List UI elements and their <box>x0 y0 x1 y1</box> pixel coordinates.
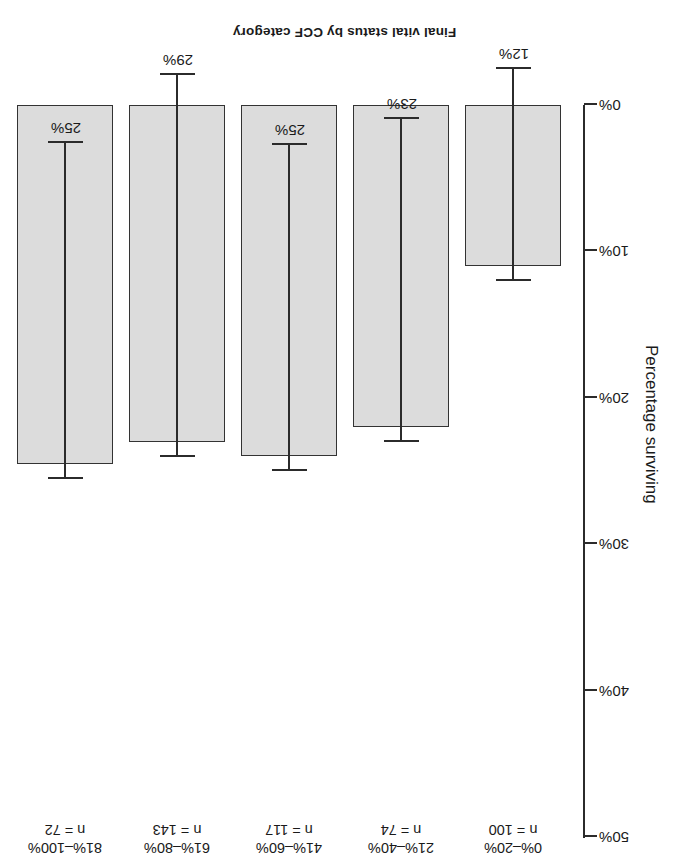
y-axis-tick-label-4: 40% <box>599 683 689 700</box>
y-axis-title: Percentage surviving <box>641 345 661 504</box>
y-axis-tick-4 <box>584 689 597 691</box>
error-bar-stem-2 <box>288 145 290 471</box>
y-axis-tick-5 <box>584 836 597 838</box>
figure-caption: Final vital status by CCF category <box>0 25 689 40</box>
category-label-1: 21%–40% n = 74 <box>343 821 459 855</box>
chart-figure: 0% 10% 20% 30% 40% 50% Percentage surviv… <box>0 0 689 855</box>
y-axis-tick-0 <box>584 103 597 105</box>
y-axis-tick-label-0: 0% <box>599 97 689 114</box>
error-value-label-1: 23% <box>367 96 437 113</box>
error-bar-cap-0 <box>496 279 531 281</box>
error-bar-cap-4 <box>48 477 83 479</box>
error-bar-cap-3 <box>160 455 195 457</box>
category-range-4: 81%–100% <box>7 839 123 855</box>
y-axis-tick-1 <box>584 250 597 252</box>
y-axis-tick-label-1: 10% <box>599 244 689 261</box>
category-n-4: n = 72 <box>7 821 123 839</box>
error-bar-stem-4 <box>64 143 66 479</box>
category-label-0: 0%–20% n = 100 <box>455 821 571 855</box>
error-value-label-0: 12% <box>479 46 549 63</box>
error-bar-stem-3 <box>176 75 178 457</box>
error-bar-lower-cap-4 <box>48 141 83 143</box>
category-n-0: n = 100 <box>455 821 571 839</box>
error-bar-lower-cap-2 <box>272 143 307 145</box>
category-n-3: n = 143 <box>119 821 235 839</box>
category-range-1: 21%–40% <box>343 839 459 855</box>
y-axis-tick-3 <box>584 543 597 545</box>
category-n-1: n = 74 <box>343 821 459 839</box>
category-n-2: n = 117 <box>231 821 347 839</box>
category-range-0: 0%–20% <box>455 839 571 855</box>
error-bar-lower-cap-1 <box>384 117 419 119</box>
error-value-label-2: 25% <box>255 122 325 139</box>
category-label-4: 81%–100% n = 72 <box>7 821 123 855</box>
y-axis-tick-label-3: 30% <box>599 537 689 554</box>
error-bar-lower-cap-0 <box>496 67 531 69</box>
error-bar-stem-1 <box>400 119 402 442</box>
category-label-3: 61%–80% n = 143 <box>119 821 235 855</box>
category-range-2: 41%–60% <box>231 839 347 855</box>
error-value-label-3: 29% <box>143 52 213 69</box>
y-axis-tick-2 <box>584 396 597 398</box>
y-axis-tick-label-5: 50% <box>599 830 689 847</box>
error-bar-stem-0 <box>512 69 514 281</box>
error-bar-lower-cap-3 <box>160 73 195 75</box>
category-label-2: 41%–60% n = 117 <box>231 821 347 855</box>
error-bar-cap-1 <box>384 440 419 442</box>
category-range-3: 61%–80% <box>119 839 235 855</box>
y-axis-line <box>583 105 585 838</box>
error-bar-cap-2 <box>272 469 307 471</box>
error-value-label-4: 25% <box>31 120 101 137</box>
